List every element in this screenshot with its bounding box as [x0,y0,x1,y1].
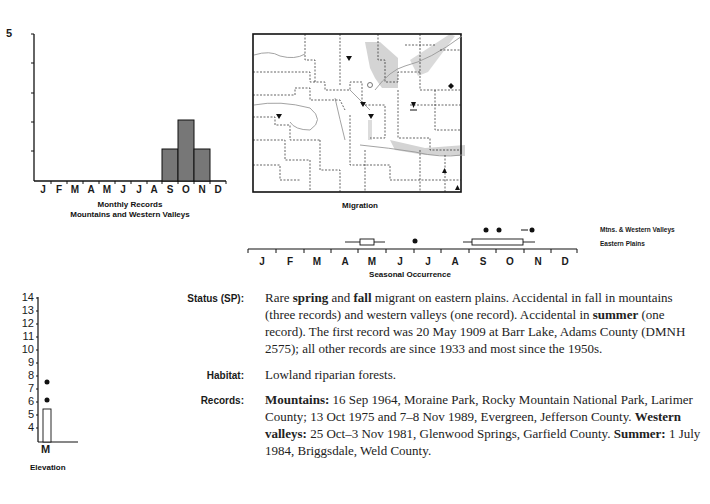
status-label: Status (SP): [150,293,244,304]
monthly-bars-graphic [0,0,240,200]
colorado-map-graphic [250,30,470,200]
status-text: Rare spring and fall migrant on eastern … [265,289,705,357]
elevation-graphic [0,290,90,460]
map-caption: Migration [300,201,420,210]
habitat-text: Lowland riparian forests. [265,366,705,383]
habitat-label: Habitat: [150,370,244,381]
legend-eastern-plains: Eastern Plains [600,240,645,247]
records-text: Mountains: 16 Sep 1964, Moraine Park, Ro… [265,391,705,459]
legend-mountains-western-valleys: Mtns. & Western Valleys [600,226,675,233]
elevation-x-label: M [41,443,50,455]
elevation-caption: Elevation [30,463,70,472]
records-label: Records: [150,395,244,406]
monthly-caption-line1: Monthly Records [30,200,230,209]
monthly-caption-line2: Mountains and Western Valleys [30,210,230,219]
seasonal-caption: Seasonal Occurrence [340,270,480,279]
